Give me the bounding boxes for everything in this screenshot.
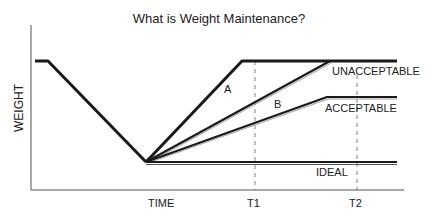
label-acceptable: ACCEPTABLE <box>325 102 397 114</box>
label-b: B <box>274 98 281 110</box>
chart-title: What is Weight Maintenance? <box>0 11 438 26</box>
series-b-unacceptable <box>146 61 330 162</box>
y-axis-label: WEIGHT <box>12 84 26 132</box>
label-unacceptable: UNACCEPTABLE <box>332 65 420 77</box>
x-tick-t1: T1 <box>247 197 260 209</box>
x-tick-time: TIME <box>148 197 174 209</box>
x-tick-t2: T2 <box>349 197 362 209</box>
series-initial-loss <box>35 61 146 162</box>
label-ideal: IDEAL <box>316 166 348 178</box>
series-b-shadow <box>148 63 331 163</box>
label-a: A <box>224 83 231 95</box>
